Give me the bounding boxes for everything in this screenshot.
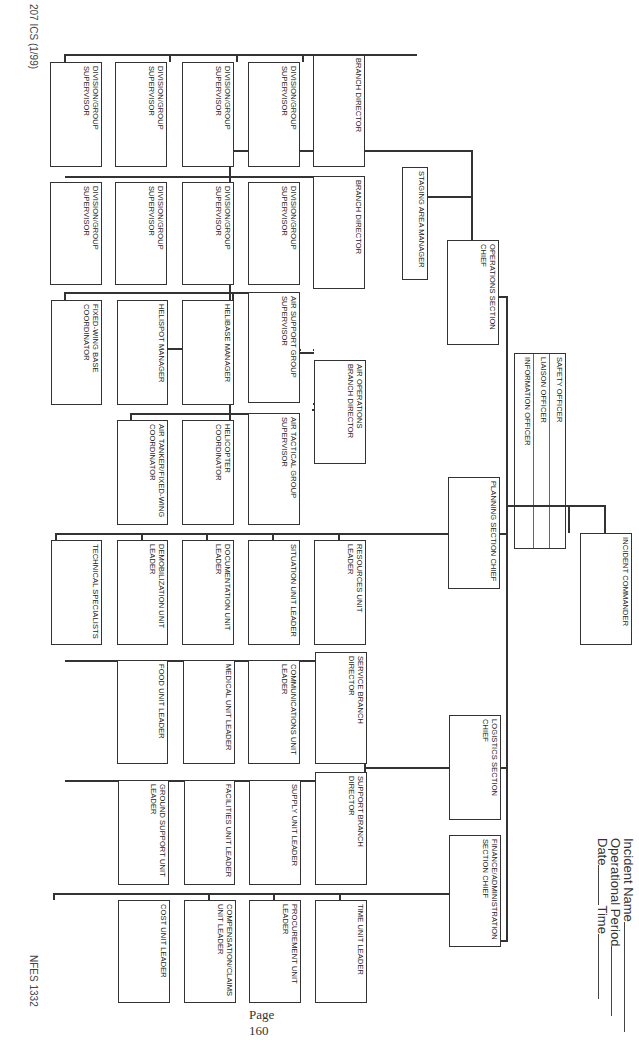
medical-unit-label: MEDICAL UNIT LEADER xyxy=(224,664,233,751)
form-id: 207 ICS (1/99) xyxy=(28,4,39,69)
situation-unit-label: SITUATION UNIT LEADER xyxy=(289,544,298,637)
connector xyxy=(366,767,449,769)
incident-name-field[interactable] xyxy=(624,922,635,1032)
division-box: DIVISION/GROUP SUPERVISOR xyxy=(115,182,167,285)
finance-chief-box: FINANCE/ADMINISTRATION SECTION CHIEF xyxy=(449,835,501,947)
connector xyxy=(56,533,58,540)
ground-support-unit-box: GROUND SUPPORT UNIT LEADER xyxy=(118,780,169,885)
air-support-group-label: AIR SUPPORT GROUP SUPERVISOR xyxy=(280,296,298,378)
operational-period-label: Operational Period xyxy=(609,838,622,946)
helicopter-coordinator-label: HELICOPTER COORDINATOR xyxy=(214,424,232,481)
connector xyxy=(340,893,342,900)
connector xyxy=(207,533,209,540)
division-box: DIVISION/GROUP SUPERVISOR xyxy=(50,62,102,167)
connector xyxy=(428,196,473,198)
connector xyxy=(168,348,182,350)
fixed-wing-base-box: FIXED-WING BASE COORDINATOR xyxy=(51,300,102,405)
logistics-chief-box: LOGISTICS SECTION CHIEF xyxy=(449,715,501,820)
supply-unit-box: SUPPLY UNIT LEADER xyxy=(249,780,301,885)
operational-period-field[interactable] xyxy=(611,946,622,1016)
helicopter-coordinator-box: HELICOPTER COORDINATOR xyxy=(182,420,234,525)
technical-specialists-label: TECHNICAL SPECIALISTS xyxy=(91,544,100,639)
incident-commander-label: INCIDENT COMMANDER xyxy=(621,537,630,626)
operations-chief-label: OPERATIONS SECTION CHIEF xyxy=(479,244,497,330)
communications-unit-box: COMMUNICATIONS UNIT LEADER xyxy=(248,660,300,764)
connector xyxy=(142,533,144,540)
division-box: DIVISION/GROUP SUPERVISOR xyxy=(248,62,300,167)
date-label: Date xyxy=(596,838,609,865)
division-label: DIVISION/GROUP SUPERVISOR xyxy=(214,186,232,250)
division-box: DIVISION/GROUP SUPERVISOR xyxy=(182,182,234,285)
documentation-unit-label: DOCUMENTATION UNIT LEADER xyxy=(214,544,232,630)
air-tactical-spine xyxy=(131,413,248,415)
connector xyxy=(209,893,211,900)
demobilization-unit-box: DEMOBILIZATION UNIT LEADER xyxy=(117,540,168,645)
information-officer-row: INFORMATION OFFICER xyxy=(517,354,533,548)
liaison-officer-row: LIAISON OFFICER xyxy=(533,354,549,548)
logistics-chief-label: LOGISTICS SECTION CHIEF xyxy=(481,719,499,796)
communications-unit-label: COMMUNICATIONS UNIT LEADER xyxy=(280,664,298,755)
helispot-box: HELISPOT MANAGER xyxy=(117,300,168,405)
connector xyxy=(274,893,276,900)
compensation-claims-unit-box: COMPENSATION/CLAIMS UNIT LEADER xyxy=(184,900,236,1003)
finance-spine xyxy=(54,893,449,895)
resources-unit-label: RESOURCES UNIT LEADER xyxy=(346,544,364,612)
service-branch-label: SERVICE BRANCH DIRECTOR xyxy=(347,656,365,724)
connector xyxy=(508,505,606,507)
support-branch-box: SUPPORT BRANCH DIRECTOR xyxy=(315,772,367,885)
planning-chief-label: PLANNING SECTION CHIEF xyxy=(489,481,498,582)
food-unit-label: FOOD UNIT LEADER xyxy=(157,664,166,739)
division-label: DIVISION/GROUP SUPERVISOR xyxy=(280,186,298,250)
branch-director-box-1: BRANCH DIRECTOR xyxy=(313,54,365,167)
connector xyxy=(313,409,315,411)
air-tanker-coordinator-box: AIR TANKER/FIXED-WING COORDINATOR xyxy=(117,420,168,525)
resources-unit-box: RESOURCES UNIT LEADER xyxy=(314,540,366,645)
fixed-wing-base-label: FIXED-WING BASE COORDINATOR xyxy=(82,304,100,373)
technical-specialists-box: TECHNICAL SPECIALISTS xyxy=(51,540,102,645)
connector xyxy=(300,349,301,351)
facilities-unit-label: FACILITIES UNIT LEADER xyxy=(224,784,233,877)
air-support-group-box: AIR SUPPORT GROUP SUPERVISOR xyxy=(248,292,300,403)
safety-officer-row: SAFETY OFFICER xyxy=(549,354,565,548)
division-label: DIVISION/GROUP SUPERVISOR xyxy=(82,186,100,250)
division-label: DIVISION/GROUP SUPERVISOR xyxy=(214,66,232,130)
connector xyxy=(605,505,607,533)
connector xyxy=(170,54,172,62)
time-unit-box: TIME UNIT LEADER xyxy=(315,900,367,1003)
connector xyxy=(313,349,314,351)
branch-director-label: BRANCH DIRECTOR xyxy=(354,180,363,254)
staging-area-label: STAGING AREA MANAGER xyxy=(417,171,426,268)
compensation-claims-unit-label: COMPENSATION/CLAIMS UNIT LEADER xyxy=(216,904,234,996)
connector xyxy=(233,292,235,300)
helispot-label: HELISPOT MANAGER xyxy=(157,304,166,383)
planning-spine xyxy=(56,533,448,535)
division-box: DIVISION/GROUP SUPERVISOR xyxy=(50,182,102,285)
procurement-unit-box: PROCUREMENT UNIT LEADER xyxy=(249,900,301,1003)
connector xyxy=(569,505,571,533)
helibase-label: HELIBASE MANAGER xyxy=(223,304,232,382)
supply-unit-label: SUPPLY UNIT LEADER xyxy=(290,784,299,866)
time-label: Time xyxy=(596,905,609,933)
air-tactical-group-box: AIR TACTICAL GROUP SUPERVISOR xyxy=(248,413,300,525)
finance-chief-label: FINANCE/ADMINISTRATION SECTION CHIEF xyxy=(481,839,499,940)
ground-support-unit-label: GROUND SUPPORT UNIT LEADER xyxy=(149,784,167,877)
air-ops-director-box: AIR OPERATIONS BRANCH DIRECTOR xyxy=(314,360,366,464)
division-box: DIVISION/GROUP SUPERVISOR xyxy=(115,62,167,167)
cost-unit-label: COST UNIT LEADER xyxy=(159,904,168,978)
connector xyxy=(499,296,508,298)
section-spine xyxy=(507,296,509,941)
helibase-box: HELIBASE MANAGER xyxy=(182,300,234,405)
connector xyxy=(507,533,509,535)
situation-unit-box: SITUATION UNIT LEADER xyxy=(248,540,300,645)
division-box: DIVISION/GROUP SUPERVISOR xyxy=(182,62,234,167)
cost-unit-box: COST UNIT LEADER xyxy=(118,900,170,1003)
time-field[interactable] xyxy=(598,934,609,999)
division-label: DIVISION/GROUP SUPERVISOR xyxy=(280,66,298,130)
air-ops-director-label: AIR OPERATIONS BRANCH DIRECTOR xyxy=(346,364,364,438)
connector xyxy=(472,150,474,240)
incident-commander-box: INCIDENT COMMANDER xyxy=(580,533,632,645)
command-staff-box: SAFETY OFFICER LIAISON OFFICER INFORMATI… xyxy=(514,353,566,549)
branch-director-label: BRANCH DIRECTOR xyxy=(354,58,363,132)
date-field[interactable] xyxy=(598,865,609,905)
planning-chief-box: PLANNING SECTION CHIEF xyxy=(448,477,500,589)
